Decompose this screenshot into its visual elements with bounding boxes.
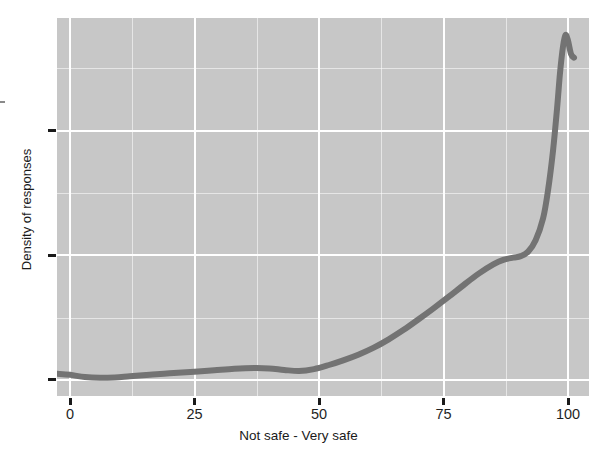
gridline-vertical-major — [194, 18, 196, 396]
gridline-vertical-major — [318, 18, 320, 396]
x-axis-ticklabel: 75 — [414, 406, 474, 422]
density-chart: 0255075100 Not safe - Very safe Density … — [0, 0, 597, 463]
density-curve-path — [57, 35, 574, 378]
y-axis-tick — [48, 254, 56, 257]
x-axis-tick — [69, 398, 72, 405]
gridline-horizontal-minor — [57, 193, 589, 194]
gridline-vertical-major — [69, 18, 71, 396]
x-axis-tick — [193, 398, 196, 405]
stray-artifact-mark — [0, 101, 5, 103]
gridline-vertical-major — [443, 18, 445, 396]
x-axis-tick — [318, 398, 321, 405]
x-axis-tick — [567, 398, 570, 405]
gridline-vertical-minor — [506, 18, 507, 396]
x-axis-title: Not safe - Very safe — [0, 428, 597, 443]
plot-panel — [57, 18, 589, 396]
x-axis-ticklabel: 50 — [289, 406, 349, 422]
gridline-vertical-minor — [381, 18, 382, 396]
gridline-horizontal-minor — [57, 68, 589, 69]
gridline-horizontal-minor — [57, 318, 589, 319]
gridline-vertical-minor — [257, 18, 258, 396]
gridline-horizontal-major — [57, 130, 589, 132]
x-axis-ticklabel: 25 — [165, 406, 225, 422]
density-curve — [57, 18, 589, 396]
x-axis-ticklabel: 0 — [40, 406, 100, 422]
gridline-vertical-minor — [132, 18, 133, 396]
gridline-vertical-major — [567, 18, 569, 396]
y-axis-tick — [48, 378, 56, 381]
gridline-horizontal-major — [57, 379, 589, 381]
x-axis-tick — [442, 398, 445, 405]
gridline-horizontal-major — [57, 254, 589, 256]
x-axis-ticklabel: 100 — [538, 406, 597, 422]
y-axis-tick — [48, 129, 56, 132]
y-axis-title: Density of responses — [19, 110, 34, 310]
